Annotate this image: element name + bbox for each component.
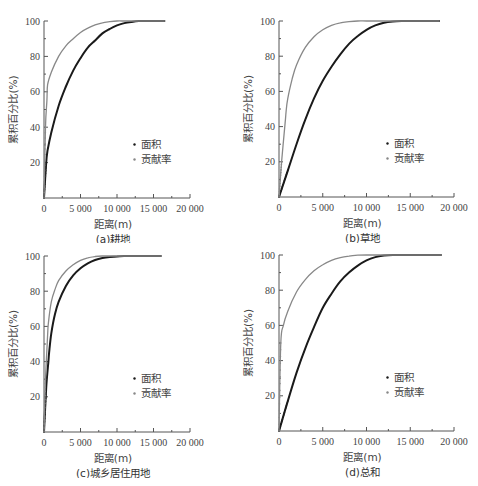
chart-a-svg: 2040608010005 00010 00015 00020 000距离(m)… xyxy=(0,0,239,243)
x-tick-label: 20 000 xyxy=(440,202,468,213)
legend-marker xyxy=(386,142,388,144)
series-contribution xyxy=(278,21,439,198)
x-axis-label: 距离(m) xyxy=(343,217,381,229)
x-tick-label: 15 000 xyxy=(140,203,168,214)
legend-label: 贡献率 xyxy=(394,386,424,398)
x-tick-label: 10 000 xyxy=(103,437,131,448)
y-tick-label: 60 xyxy=(30,321,40,332)
y-tick-label: 80 xyxy=(30,286,40,297)
series-contribution xyxy=(43,21,164,199)
x-tick-label: 10 000 xyxy=(353,202,381,213)
axes: 2040608010005 00010 00015 00020 000 xyxy=(260,16,468,214)
chart-c-svg: 2040608010005 00010 00015 00020 000距离(m)… xyxy=(0,235,239,478)
x-axis-label: 距离(m) xyxy=(343,451,381,463)
x-tick-label: 20 000 xyxy=(440,436,468,447)
chart-panel-b: 2040608010005 00010 00015 00020 000距离(m)… xyxy=(235,0,474,243)
legend-marker xyxy=(133,158,135,160)
chart-panel-d: 2040608010005 00010 00015 00020 000距离(m)… xyxy=(235,235,474,478)
series-contribution xyxy=(43,256,161,433)
legend-label: 面积 xyxy=(394,137,415,149)
y-tick-label: 100 xyxy=(260,16,275,27)
legend-label: 面积 xyxy=(141,372,162,384)
legend-marker xyxy=(133,377,135,379)
y-axis-label: 累积百分比(%) xyxy=(7,75,19,143)
x-tick-label: 10 000 xyxy=(353,436,381,447)
y-tick-label: 20 xyxy=(30,391,40,402)
y-tick-label: 60 xyxy=(265,320,275,331)
axes: 2040608010005 00010 00015 00020 000 xyxy=(25,251,204,449)
series-area xyxy=(278,21,439,198)
x-tick-label: 20 000 xyxy=(176,203,204,214)
x-tick-label: 15 000 xyxy=(397,436,425,447)
chart-b-svg: 2040608010005 00010 00015 00020 000距离(m)… xyxy=(235,0,474,243)
x-tick-label: 20 000 xyxy=(176,437,204,448)
y-tick-label: 100 xyxy=(25,251,40,262)
panel-caption: (d)总和 xyxy=(345,466,380,478)
series-area xyxy=(278,255,441,432)
legend-marker xyxy=(386,157,388,159)
y-axis-label: 累积百分比(%) xyxy=(242,75,254,143)
x-tick-label: 10 000 xyxy=(103,203,131,214)
series-area xyxy=(43,21,164,199)
axes: 2040608010005 00010 00015 00020 000 xyxy=(25,16,204,215)
x-tick-label: 5 000 xyxy=(312,436,335,447)
legend: 面积贡献率 xyxy=(133,372,170,399)
legend: 面积贡献率 xyxy=(386,371,423,398)
y-tick-label: 20 xyxy=(265,156,275,167)
legend-marker xyxy=(133,143,135,145)
y-tick-label: 20 xyxy=(30,157,40,168)
legend-label: 面积 xyxy=(141,138,162,150)
legend-label: 贡献率 xyxy=(394,152,424,164)
y-axis-label: 累积百分比(%) xyxy=(242,309,254,377)
x-tick-label: 15 000 xyxy=(397,202,425,213)
legend-marker xyxy=(386,376,388,378)
y-axis-label: 累积百分比(%) xyxy=(7,310,19,378)
series-contribution xyxy=(278,255,441,432)
y-tick-label: 100 xyxy=(260,250,275,261)
x-tick-label: 5 000 xyxy=(69,203,92,214)
axes: 2040608010005 00010 00015 00020 000 xyxy=(260,250,468,448)
chart-panel-a: 2040608010005 00010 00015 00020 000距离(m)… xyxy=(0,0,239,243)
series-area xyxy=(43,256,161,433)
x-axis-label: 距离(m) xyxy=(94,218,132,230)
x-tick-label: 15 000 xyxy=(140,437,168,448)
legend-marker xyxy=(133,392,135,394)
y-tick-label: 60 xyxy=(30,86,40,97)
y-tick-label: 40 xyxy=(265,355,275,366)
y-tick-label: 20 xyxy=(265,390,275,401)
y-tick-label: 40 xyxy=(30,356,40,367)
chart-panel-c: 2040608010005 00010 00015 00020 000距离(m)… xyxy=(0,235,239,478)
legend: 面积贡献率 xyxy=(386,137,423,164)
legend-label: 贡献率 xyxy=(141,387,171,399)
y-tick-label: 80 xyxy=(265,285,275,296)
x-tick-label: 5 000 xyxy=(312,202,335,213)
legend: 面积贡献率 xyxy=(133,138,170,165)
panel-caption: (c)城乡居住用地 xyxy=(76,467,151,478)
y-tick-label: 40 xyxy=(265,121,275,132)
legend-marker xyxy=(386,391,388,393)
x-tick-label: 0 xyxy=(277,202,282,213)
y-tick-label: 60 xyxy=(265,86,275,97)
x-axis-label: 距离(m) xyxy=(94,452,132,464)
x-tick-label: 0 xyxy=(42,203,47,214)
x-tick-label: 5 000 xyxy=(69,437,92,448)
chart-d-svg: 2040608010005 00010 00015 00020 000距离(m)… xyxy=(235,235,474,478)
y-tick-label: 100 xyxy=(25,16,40,27)
y-tick-label: 80 xyxy=(30,51,40,62)
truncated-figure-caption xyxy=(250,481,390,486)
y-tick-label: 40 xyxy=(30,122,40,133)
y-tick-label: 80 xyxy=(265,51,275,62)
x-tick-label: 0 xyxy=(42,437,47,448)
x-tick-label: 0 xyxy=(277,436,282,447)
legend-label: 面积 xyxy=(394,371,415,383)
legend-label: 贡献率 xyxy=(141,153,171,165)
